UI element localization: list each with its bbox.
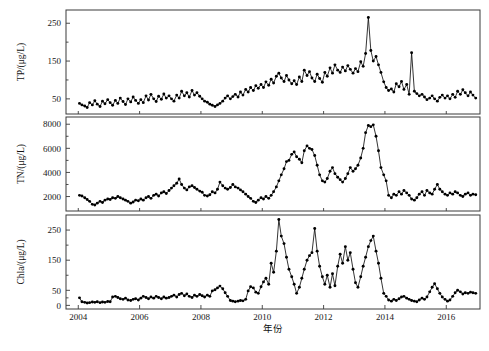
data-point-bottom [415,300,418,303]
data-point-middle [208,193,211,196]
data-point-middle [247,195,250,198]
data-point-bottom [426,296,429,299]
data-point-top [438,96,441,99]
data-point-middle [362,147,365,150]
x-tick-label: 2004 [69,312,88,322]
data-point-bottom [321,275,324,278]
data-point-top [262,86,265,89]
data-point-top [413,90,416,93]
data-point-bottom [208,295,211,298]
data-point-bottom [464,291,467,294]
data-point-top [433,97,436,100]
data-point-top [367,16,370,19]
data-point-top [139,98,142,101]
data-point-top [247,91,250,94]
data-point-bottom [326,274,329,277]
data-point-bottom [283,242,286,245]
y-tick-label-middle: 6000 [43,144,62,154]
data-point-bottom [252,286,255,289]
data-point-middle [214,191,217,194]
data-point-top [472,94,475,97]
data-point-top [421,93,424,96]
x-tick-label: 2014 [376,312,395,322]
data-point-bottom [104,301,107,304]
data-point-top [410,51,413,54]
data-point-bottom [474,292,477,295]
data-point-bottom [165,297,168,300]
data-point-top [81,103,84,106]
data-point-bottom [106,300,109,303]
data-point-middle [86,198,89,201]
data-point-middle [127,200,130,203]
data-point-middle [326,177,329,180]
data-point-middle [165,192,168,195]
data-point-middle [134,199,137,202]
data-point-bottom [334,284,337,287]
data-point-top [469,91,472,94]
data-point-bottom [306,259,309,262]
data-point-middle [369,125,372,128]
data-point-top [293,79,296,82]
data-point-middle [252,200,255,203]
data-point-top [175,94,178,97]
data-point-middle [280,173,283,176]
data-point-bottom [336,265,339,268]
data-point-middle [341,181,344,184]
data-point-middle [231,183,234,186]
data-point-middle [380,166,383,169]
data-point-middle [413,199,416,202]
data-point-middle [469,194,472,197]
data-point-top [341,66,344,69]
data-point-top [408,93,411,96]
data-point-middle [331,166,334,169]
data-point-top [395,82,398,85]
data-point-bottom [413,300,416,303]
data-point-bottom [331,272,334,275]
data-point-middle [403,189,406,192]
data-point-middle [193,186,196,189]
data-point-bottom [260,285,263,288]
data-point-top [188,96,191,99]
data-point-middle [91,203,94,206]
data-point-bottom [272,271,275,274]
data-point-top [265,80,268,83]
data-point-bottom [216,286,219,289]
data-point-top [464,91,467,94]
data-point-bottom [444,298,447,301]
data-point-bottom [109,300,112,303]
data-point-top [127,97,130,100]
data-point-top [93,99,96,102]
data-point-top [191,89,194,92]
data-point-middle [254,201,257,204]
data-point-top [451,93,454,96]
data-point-top [344,69,347,72]
data-point-bottom [308,254,311,257]
data-point-middle [385,179,388,182]
data-point-bottom [244,298,247,301]
data-point-top [237,96,240,99]
data-point-top [303,69,306,72]
x-axis-title: 年份 [263,323,283,334]
y-tick-label-top: 250 [48,18,62,28]
data-point-middle [173,184,176,187]
data-point-bottom [226,295,229,298]
data-point-bottom [185,292,188,295]
data-point-top [377,63,380,66]
data-point-middle [270,194,273,197]
data-point-middle [321,179,324,182]
data-point-bottom [456,289,459,292]
data-point-bottom [219,285,222,288]
x-tick-label: 2008 [192,312,211,322]
data-point-middle [96,202,99,205]
three-panel-time-series-chart: 50150250TP/(μg/L)2000400060008000TN/(μg/… [0,0,489,351]
data-point-bottom [436,287,439,290]
data-point-bottom [341,262,344,265]
data-point-bottom [173,294,176,297]
y-tick-label-top: 50 [52,94,62,104]
data-point-top [224,97,227,100]
data-point-middle [431,193,434,196]
data-point-middle [93,204,96,207]
data-point-bottom [362,265,365,268]
data-point-middle [318,173,321,176]
data-point-middle [418,193,421,196]
